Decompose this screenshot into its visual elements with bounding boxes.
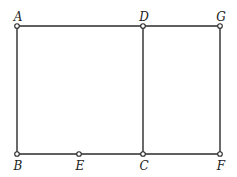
points — [15, 24, 223, 157]
point-b — [15, 152, 20, 157]
point-f — [218, 152, 223, 157]
point-g — [218, 24, 223, 29]
label-c: C — [139, 159, 148, 173]
labels: A D G B E C F — [13, 10, 227, 173]
segments — [17, 26, 220, 154]
label-f: F — [216, 159, 226, 173]
point-c — [141, 152, 146, 157]
label-b: B — [13, 159, 23, 173]
point-a — [15, 24, 20, 29]
label-d: D — [138, 10, 149, 24]
label-g: G — [216, 10, 226, 24]
point-e — [77, 152, 82, 157]
label-e: E — [75, 159, 85, 173]
geometry-diagram: A D G B E C F — [0, 0, 237, 177]
label-a: A — [13, 10, 23, 24]
point-d — [141, 24, 146, 29]
